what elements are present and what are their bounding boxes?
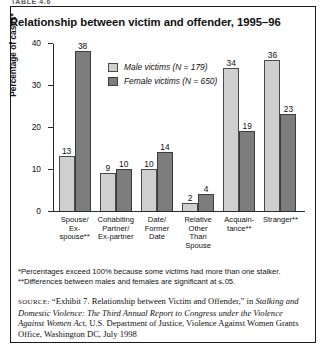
y-tick-label-10: 10: [32, 164, 41, 174]
legend-label-male: Male victims (N = 179): [124, 62, 208, 72]
figure-page: TABLE 4.6 Relationship between victim an…: [0, 0, 328, 349]
footnote-1: *Percentages exceed 100% because some vi…: [18, 267, 306, 277]
y-tick-label-20: 20: [32, 122, 41, 132]
page-title: Relationship between victim and offender…: [10, 16, 300, 29]
source-part1: “Exhibit 7. Relationship between Victim …: [50, 296, 256, 306]
bar-male[interactable]: 34: [223, 68, 239, 211]
y-tick-40: 40: [48, 43, 53, 44]
bar-female[interactable]: 14: [157, 152, 173, 211]
x-tick-label-line: Date: [137, 233, 176, 242]
bar-value: 19: [243, 121, 252, 131]
bar-male[interactable]: 2: [182, 203, 198, 211]
bar-value: 9: [105, 163, 110, 173]
x-tick-label: Stranger**: [260, 216, 301, 250]
source-label: SOURCE:: [18, 298, 50, 306]
footnote-2: **Differences between males and females …: [18, 277, 306, 287]
bar-male[interactable]: 13: [59, 156, 75, 211]
x-tick-label: Acquain-tance**: [219, 216, 260, 250]
bar-female[interactable]: 38: [75, 51, 91, 211]
bar-value: 13: [62, 146, 71, 156]
bar-female[interactable]: 10: [116, 169, 132, 211]
y-tick-label-40: 40: [32, 38, 41, 48]
footnotes: *Percentages exceed 100% because some vi…: [18, 267, 306, 287]
y-tick-0: 0: [48, 211, 53, 212]
legend-swatch-icon: [108, 63, 118, 72]
bar-value: 4: [204, 184, 209, 194]
legend-label-female: Female victims (N = 650): [124, 76, 217, 86]
running-head: TABLE 4.6: [11, 0, 51, 4]
legend-item-male[interactable]: Male victims (N = 179): [108, 62, 217, 72]
bar-male[interactable]: 9: [100, 173, 116, 211]
legend-swatch-icon: [108, 77, 118, 86]
y-tick-10: 10: [48, 169, 53, 170]
x-tick-label: CohabitingPartner/Ex-partner: [95, 216, 136, 250]
y-tick-30: 30: [48, 85, 53, 86]
x-tick-label-line: Than Spouse: [179, 233, 218, 250]
x-tick-label: Spouse/Ex-spouse**: [54, 216, 95, 250]
bar-value: 36: [268, 50, 277, 60]
bar-group: 36 23: [260, 44, 301, 211]
y-axis-label: Percentage of cases*: [8, 10, 18, 100]
x-tick-label: Date/FormerDate: [136, 216, 177, 250]
legend-item-female[interactable]: Female victims (N = 650): [108, 76, 217, 86]
bar-value: 10: [119, 159, 128, 169]
bar-female[interactable]: 23: [280, 114, 296, 211]
x-tick-label-line: Ex-spouse**: [55, 225, 94, 242]
x-tick-label-line: tance**: [220, 225, 259, 234]
x-tick-label-line: Stranger**: [261, 216, 300, 225]
bar-female[interactable]: 4: [198, 194, 214, 211]
bar-group: 34 19: [219, 44, 260, 211]
chart-legend: Male victims (N = 179) Female victims (N…: [108, 62, 217, 90]
bar-value: 34: [227, 58, 236, 68]
bar-group: 13 38: [54, 44, 95, 211]
x-tick-label: RelativeOtherThan Spouse: [178, 216, 219, 250]
y-tick-label-30: 30: [32, 80, 41, 90]
bar-female[interactable]: 19: [239, 131, 255, 211]
x-tick-label-line: Ex-partner: [96, 233, 135, 242]
bar-value: 14: [160, 142, 169, 152]
bar-male[interactable]: 36: [264, 60, 280, 211]
bar-value: 10: [144, 159, 153, 169]
bar-value: 2: [188, 193, 193, 203]
bar-male[interactable]: 10: [141, 169, 157, 211]
bar-value: 23: [284, 104, 293, 114]
source-note: SOURCE: “Exhibit 7. Relationship between…: [18, 296, 308, 339]
bar-chart: Percentage of cases* 0 10 20 30 40 13: [10, 40, 306, 230]
y-tick-label-0: 0: [36, 206, 41, 216]
y-tick-20: 20: [48, 127, 53, 128]
bar-value: 38: [78, 41, 87, 51]
x-axis-labels: Spouse/Ex-spouse** CohabitingPartner/Ex-…: [54, 216, 301, 250]
